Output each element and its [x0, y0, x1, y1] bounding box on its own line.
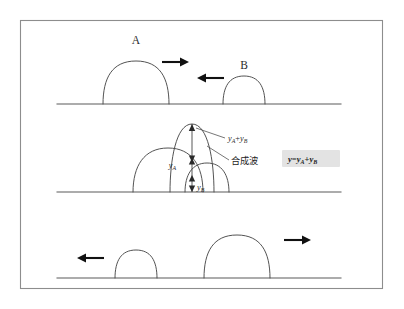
callout-resultant-wave: 合成波	[231, 155, 258, 166]
label-pulse-b: B	[240, 59, 248, 71]
wave-superposition-figure: A B	[0, 0, 404, 309]
label-pulse-a: A	[132, 34, 141, 46]
superposition-formula-box: y=yA+yB	[282, 150, 340, 167]
figure-canvas: A B	[0, 0, 404, 309]
